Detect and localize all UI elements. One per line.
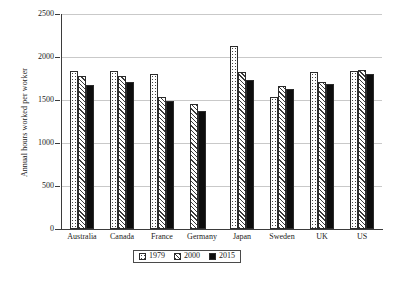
bar-group bbox=[222, 14, 262, 229]
bar-sweden-2015 bbox=[286, 89, 294, 229]
legend-item[interactable]: 2000 bbox=[174, 252, 200, 260]
y-tick-label: 2000 bbox=[14, 53, 54, 61]
bar-canada-2000 bbox=[118, 76, 126, 229]
legend-item[interactable]: 1979 bbox=[139, 252, 165, 260]
bar-us-1979 bbox=[350, 71, 358, 229]
y-tick-label: 1500 bbox=[14, 96, 54, 104]
legend-swatch-1979-icon bbox=[139, 253, 146, 260]
bar-germany-2000 bbox=[190, 104, 198, 229]
bar-australia-2000 bbox=[78, 76, 86, 229]
bar-us-2015 bbox=[366, 74, 374, 229]
x-axis-label: US bbox=[342, 232, 382, 241]
y-tick-mark bbox=[55, 143, 60, 144]
bar-japan-2015 bbox=[246, 80, 254, 229]
legend-label: 2015 bbox=[219, 252, 235, 260]
bar-sweden-2000 bbox=[278, 86, 286, 229]
legend-label: 1979 bbox=[149, 252, 165, 260]
bar-chart: Annual hours worked per worker 050010001… bbox=[0, 0, 401, 283]
y-tick-mark bbox=[55, 186, 60, 187]
legend-label: 2000 bbox=[184, 252, 200, 260]
y-axis-ticks: 05001000150020002500 bbox=[14, 14, 54, 230]
bar-france-2000 bbox=[158, 97, 166, 229]
x-axis-label: Japan bbox=[222, 232, 262, 241]
bar-france-2015 bbox=[166, 101, 174, 229]
legend-swatch-2000-icon bbox=[174, 253, 181, 260]
bar-france-1979 bbox=[150, 74, 158, 229]
bar-japan-1979 bbox=[230, 46, 238, 229]
bar-group bbox=[142, 14, 182, 229]
bar-japan-2000 bbox=[238, 72, 246, 229]
y-tick-mark bbox=[55, 57, 60, 58]
y-tick-label: 0 bbox=[14, 225, 54, 233]
legend-item[interactable]: 2015 bbox=[209, 252, 235, 260]
bar-us-2000 bbox=[358, 70, 366, 229]
bar-sweden-1979 bbox=[270, 97, 278, 229]
bar-groups bbox=[62, 14, 382, 229]
x-axis-label: Germany bbox=[182, 232, 222, 241]
y-tick-label: 2500 bbox=[14, 10, 54, 18]
chart-legend: 1979 2000 2015 bbox=[133, 250, 241, 263]
y-tick-mark bbox=[55, 14, 60, 15]
bar-canada-2015 bbox=[126, 82, 134, 229]
x-axis-label: UK bbox=[302, 232, 342, 241]
x-axis-line bbox=[55, 229, 383, 230]
x-axis-label: Canada bbox=[102, 232, 142, 241]
x-axis-label: France bbox=[142, 232, 182, 241]
bar-uk-1979 bbox=[310, 72, 318, 229]
bar-group bbox=[302, 14, 342, 229]
x-axis-label: Sweden bbox=[262, 232, 302, 241]
bar-uk-2015 bbox=[326, 84, 334, 229]
bar-group bbox=[342, 14, 382, 229]
x-axis-label: Australia bbox=[62, 232, 102, 241]
bar-germany-2015 bbox=[198, 111, 206, 229]
y-tick-label: 500 bbox=[14, 182, 54, 190]
bar-group bbox=[102, 14, 142, 229]
plot-area bbox=[62, 14, 382, 229]
bar-canada-1979 bbox=[110, 71, 118, 229]
bar-group bbox=[62, 14, 102, 229]
y-tick-label: 1000 bbox=[14, 139, 54, 147]
bar-group bbox=[182, 14, 222, 229]
bar-australia-1979 bbox=[70, 71, 78, 229]
bar-uk-2000 bbox=[318, 82, 326, 229]
bar-group bbox=[262, 14, 302, 229]
bar-australia-2015 bbox=[86, 85, 94, 229]
legend-swatch-2015-icon bbox=[209, 253, 216, 260]
y-tick-mark bbox=[55, 100, 60, 101]
